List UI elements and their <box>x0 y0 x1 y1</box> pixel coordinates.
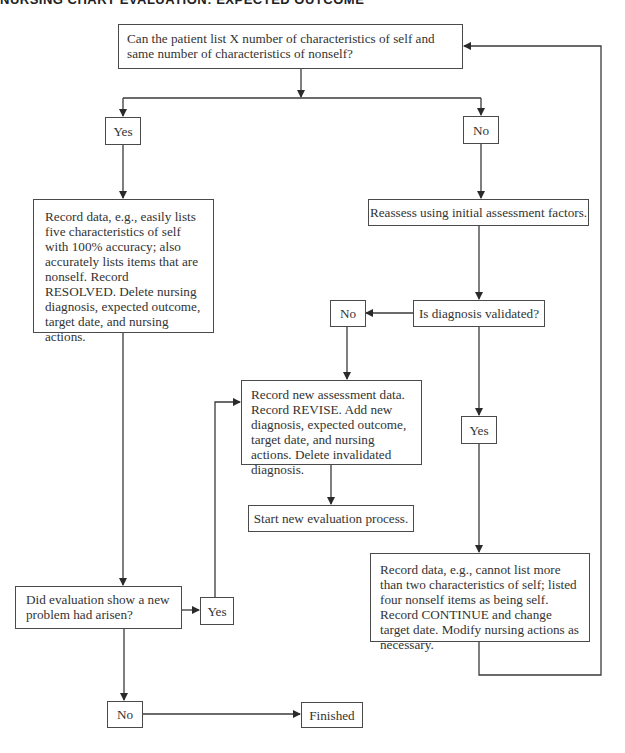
new-problem-yes-box: Yes <box>200 597 234 625</box>
yes-box-top: Yes <box>105 117 141 145</box>
new-problem-question-box: Did evaluation show a new problem had ar… <box>15 586 182 629</box>
finished-label: Finished <box>309 708 354 723</box>
new-problem-yes-label: Yes <box>207 604 226 619</box>
reassess-box: Reassess using initial assessment factor… <box>368 199 589 226</box>
start-new-box: Start new evaluation process. <box>248 505 414 532</box>
continue-box: Record data, e.g., cannot list more than… <box>370 553 590 642</box>
validated-no-box: No <box>330 300 366 327</box>
new-problem-question-text: Did evaluation show a new problem had ar… <box>26 592 170 622</box>
validated-yes-box: Yes <box>461 416 497 444</box>
finished-box: Finished <box>301 702 363 728</box>
continue-text: Record data, e.g., cannot list more than… <box>380 562 579 652</box>
new-problem-no-box: No <box>107 701 143 728</box>
revise-text: Record new assessment data. Record REVIS… <box>251 387 406 477</box>
reassess-text: Reassess using initial assessment factor… <box>370 205 587 220</box>
resolved-box: Record data, e.g., easily lists five cha… <box>33 199 214 333</box>
no-label: No <box>473 123 489 138</box>
validated-yes-label: Yes <box>469 423 488 438</box>
new-problem-no-label: No <box>117 707 133 722</box>
validated-no-label: No <box>340 306 356 321</box>
revise-box: Record new assessment data. Record REVIS… <box>241 380 422 465</box>
resolved-text: Record data, e.g., easily lists five cha… <box>45 209 200 344</box>
no-box-top: No <box>463 116 499 144</box>
validated-question-text: Is diagnosis validated? <box>419 306 539 321</box>
start-question-box: Can the patient list X number of charact… <box>118 24 463 69</box>
start-new-text: Start new evaluation process. <box>254 511 409 526</box>
yes-label: Yes <box>113 124 132 139</box>
validated-question-box: Is diagnosis validated? <box>413 300 545 327</box>
start-question-text: Can the patient list X number of charact… <box>127 31 435 61</box>
